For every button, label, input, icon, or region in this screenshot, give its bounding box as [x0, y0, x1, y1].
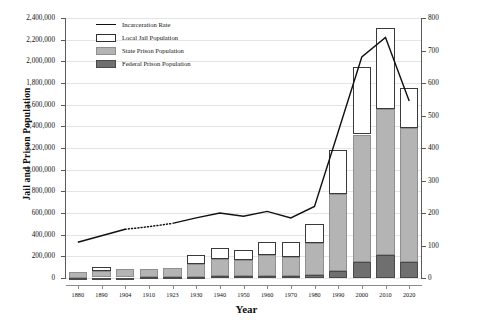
y-tick-label-right: 200	[428, 209, 439, 217]
legend-label: Federal Prison Population	[122, 60, 191, 67]
legend-item: Local Jail Population	[96, 31, 191, 44]
y-tick-label-left: 1,400,000	[26, 122, 55, 130]
y-tick-right	[422, 213, 426, 214]
x-tick-label: 1940	[207, 291, 233, 298]
y-tick-left	[61, 191, 65, 192]
y-tick-left	[61, 278, 65, 279]
x-tick-label: 1904	[112, 291, 138, 298]
y-tick-label-right: 700	[428, 47, 439, 55]
y-tick-left	[61, 170, 65, 171]
y-tick-right	[422, 246, 426, 247]
y-tick-label-left: 1,000,000	[26, 166, 55, 174]
x-tick	[291, 285, 292, 289]
y-tick-label-left: 800,000	[32, 187, 55, 195]
y-tick-label-right: 500	[428, 112, 439, 120]
y-tick-right	[422, 116, 426, 117]
x-tick	[102, 285, 103, 289]
legend-color-swatch	[96, 34, 116, 42]
x-tick-label: 2000	[349, 291, 375, 298]
x-tick	[267, 285, 268, 289]
x-tick	[78, 285, 79, 289]
x-tick-label: 1880	[65, 291, 91, 298]
y-tick-right	[422, 83, 426, 84]
y-tick-label-right: 100	[428, 242, 439, 250]
legend: Incarceration RateLocal Jail PopulationS…	[96, 18, 191, 70]
y-tick-label-right: 600	[428, 79, 439, 87]
x-tick	[362, 285, 363, 289]
y-tick-left	[61, 18, 65, 19]
y-tick-right	[422, 148, 426, 149]
y-tick-label-left: 400,000	[32, 231, 55, 239]
y-tick-label-left: 1,200,000	[26, 144, 55, 152]
y-tick-right	[422, 278, 426, 279]
x-tick-label: 1923	[160, 291, 186, 298]
x-tick-label: 1990	[325, 291, 351, 298]
x-tick	[173, 285, 174, 289]
x-tick-label: 1960	[254, 291, 280, 298]
y-tick-label-left: 600,000	[32, 209, 55, 217]
rate-line-solid	[173, 38, 410, 224]
x-tick-label: 1890	[89, 291, 115, 298]
legend-color-swatch	[96, 60, 116, 68]
y-tick-left	[61, 235, 65, 236]
y-tick-left	[61, 256, 65, 257]
x-tick-label: 1950	[231, 291, 257, 298]
y-tick-label-left: 200,000	[32, 252, 55, 260]
x-tick	[386, 285, 387, 289]
y-tick-label-right: 400	[428, 144, 439, 152]
x-tick-label: 1910	[136, 291, 162, 298]
y-tick-left	[61, 105, 65, 106]
x-tick	[196, 285, 197, 289]
y-tick-left	[61, 83, 65, 84]
legend-color-swatch	[96, 47, 116, 55]
y-tick-left	[61, 148, 65, 149]
x-tick-label: 2010	[373, 291, 399, 298]
x-tick-label: 1970	[278, 291, 304, 298]
x-tick-label: 1930	[183, 291, 209, 298]
y-tick-right	[422, 181, 426, 182]
y-tick-label-right: 300	[428, 177, 439, 185]
legend-label: Local Jail Population	[122, 34, 178, 41]
x-tick	[315, 285, 316, 289]
y-tick-left	[61, 40, 65, 41]
x-tick	[149, 285, 150, 289]
y-tick-left	[61, 61, 65, 62]
y-tick-label-right: 800	[428, 14, 439, 22]
legend-label: Incarceration Rate	[122, 21, 171, 28]
legend-item: State Prison Population	[96, 44, 191, 57]
x-tick-label: 1980	[302, 291, 328, 298]
y-tick-label-left: 2,200,000	[26, 36, 55, 44]
y-tick-right	[422, 51, 426, 52]
rate-line-solid	[78, 229, 125, 242]
y-tick-label-left: 0	[51, 274, 55, 282]
x-tick	[338, 285, 339, 289]
x-tick	[409, 285, 410, 289]
x-axis-title: Year	[0, 303, 493, 315]
y-tick-right	[422, 18, 426, 19]
rate-line-estimated	[125, 223, 172, 229]
x-tick	[244, 285, 245, 289]
legend-line-swatch	[96, 24, 116, 25]
y-tick-label-left: 1,600,000	[26, 101, 55, 109]
legend-item: Incarceration Rate	[96, 18, 191, 31]
legend-label: State Prison Population	[122, 47, 184, 54]
legend-item: Federal Prison Population	[96, 57, 191, 70]
y-tick-label-left: 2,000,000	[26, 57, 55, 65]
x-tick-label: 2020	[396, 291, 422, 298]
y-tick-left	[61, 213, 65, 214]
x-tick	[220, 285, 221, 289]
chart-figure: Jail and Prison Population Incarceration…	[0, 0, 493, 327]
x-tick	[125, 285, 126, 289]
y-tick-label-left: 1,800,000	[26, 79, 55, 87]
y-tick-left	[61, 126, 65, 127]
y-tick-label-left: 2,400,000	[26, 14, 55, 22]
y-tick-label-right: 0	[428, 274, 432, 282]
